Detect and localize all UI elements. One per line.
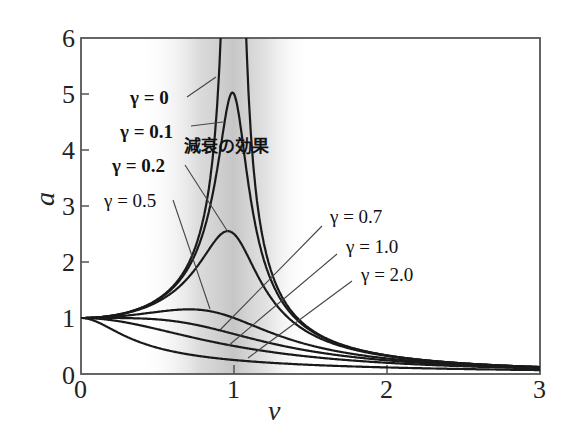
y-tick-3: 3 [62,192,75,221]
resonance-chart: 0 1 2 3 4 5 6 0 1 2 3 ν a γ = 0 γ = 0.1 … [0,0,572,442]
label-gamma-0-5: γ = 0.5 [103,190,156,211]
x-tick-3: 3 [533,375,546,404]
x-tick-0: 0 [74,375,87,404]
y-axis-ticks [81,94,89,318]
y-tick-6: 6 [62,24,75,53]
y-axis-label: a [29,192,60,206]
label-gamma-0: γ = 0 [129,87,169,108]
label-gamma-1-0: γ = 1.0 [345,236,398,257]
label-gamma-0-1: γ = 0.1 [119,121,173,142]
y-tick-5: 5 [62,80,75,109]
x-tick-2: 2 [380,375,393,404]
y-tick-1: 1 [62,304,75,333]
x-tick-1: 1 [227,375,240,404]
label-gamma-0-2: γ = 0.2 [111,155,165,176]
damping-effect-annotation: 減衰の効果 [184,136,269,156]
y-tick-2: 2 [62,248,75,277]
y-tick-4: 4 [62,136,75,165]
label-gamma-2-0: γ = 2.0 [360,264,413,285]
x-axis-label: ν [268,395,281,426]
label-gamma-0-7: γ = 0.7 [329,206,382,227]
